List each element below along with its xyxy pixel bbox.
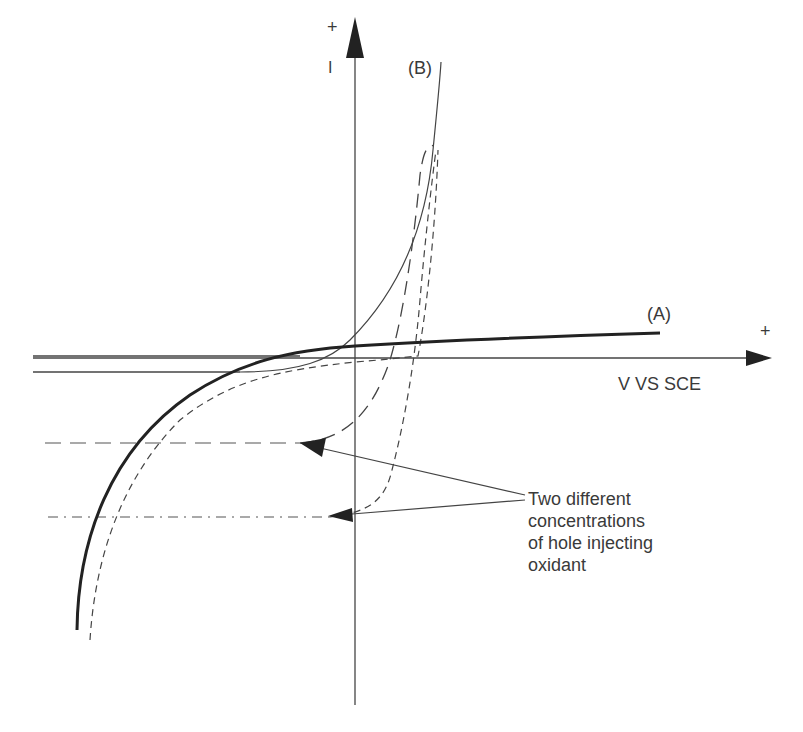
curve-long-dashed	[300, 145, 433, 443]
curve-a-label: (A)	[647, 305, 671, 323]
annotation-text: Two different concentrations of hole inj…	[528, 488, 653, 576]
diagram-canvas	[0, 0, 803, 732]
y-axis-positive-sign: +	[327, 18, 338, 36]
curve-short-dashed	[90, 150, 438, 640]
curve-a	[77, 333, 660, 630]
annotation-line: oxidant	[528, 554, 653, 576]
annotation-line: of hole injecting	[528, 532, 653, 554]
curve-b	[240, 62, 441, 372]
x-axis-label: V VS SCE	[618, 375, 701, 393]
y-axis-label: I	[328, 60, 332, 76]
x-axis	[33, 350, 772, 366]
annotation-line: Two different	[528, 488, 653, 510]
annotation-arrows	[300, 438, 525, 522]
x-axis-positive-sign: +	[760, 322, 771, 340]
annotation-line: concentrations	[528, 510, 653, 532]
curve-b-label: (B)	[408, 59, 432, 77]
